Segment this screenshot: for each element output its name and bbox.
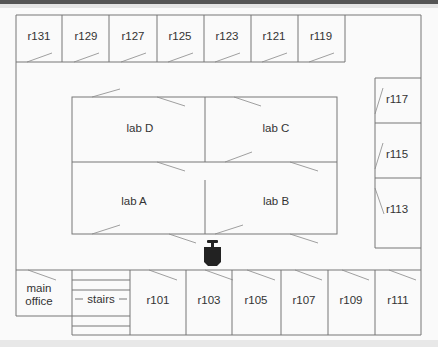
room-r117: r117 — [386, 93, 408, 105]
floor-plan: r131 r129 r127 r125 r123 r121 r119 lab D… — [0, 0, 438, 347]
robot-icon — [204, 240, 221, 266]
main-office-line1: main — [27, 282, 52, 294]
lab-d: lab D — [127, 122, 154, 134]
outer-wall — [16, 15, 421, 335]
labs-block — [72, 89, 337, 243]
room-r129: r129 — [74, 30, 97, 42]
lab-a: lab A — [121, 195, 147, 207]
stairs-label: stairs — [87, 293, 115, 305]
room-r105: r105 — [244, 294, 267, 306]
room-r125: r125 — [168, 30, 191, 42]
room-r113: r113 — [386, 203, 408, 215]
room-r131: r131 — [27, 30, 50, 42]
room-r103: r103 — [197, 294, 220, 306]
room-r111: r111 — [387, 294, 408, 306]
room-r123: r123 — [215, 30, 238, 42]
room-r121: r121 — [262, 30, 285, 42]
lab-c: lab C — [263, 122, 290, 134]
room-r127: r127 — [121, 30, 144, 42]
room-r101: r101 — [146, 294, 169, 306]
lab-b: lab B — [263, 195, 290, 207]
room-r107: r107 — [292, 294, 315, 306]
main-office-line2: office — [25, 295, 52, 307]
room-r109: r109 — [339, 294, 362, 306]
room-r115: r115 — [386, 148, 408, 160]
room-r119: r119 — [310, 30, 332, 42]
